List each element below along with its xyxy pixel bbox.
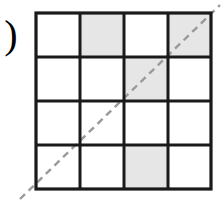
grid-cell-r3c4[interactable] [168,101,211,145]
grid-cell-r2c1[interactable] [36,57,80,101]
grid-cell-r2c4[interactable] [168,57,211,101]
grid-cell-r2c3[interactable] [124,57,168,101]
grid-cell-r4c4[interactable] [168,145,211,189]
grid-cell-r1c3[interactable] [124,13,168,57]
grid-cell-r1c2[interactable] [80,13,124,57]
grid-cell-r2c2[interactable] [80,57,124,101]
grid-cell-r4c3[interactable] [124,145,168,189]
grid-cell-r1c1[interactable] [36,13,80,57]
grid-cell-r4c1[interactable] [36,145,80,189]
grid-cell-r3c3[interactable] [124,101,168,145]
grid-cell-r4c2[interactable] [80,145,124,189]
figure-root: ) [0,0,221,200]
grid-cell-r3c2[interactable] [80,101,124,145]
grid-cell-r3c1[interactable] [36,101,80,145]
grid-diagram [0,0,221,200]
